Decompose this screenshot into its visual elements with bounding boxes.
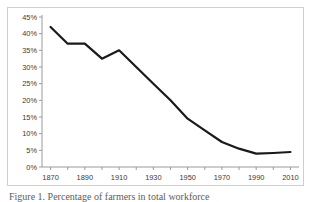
x-axis-tick-label: 1970 — [214, 173, 230, 182]
y-axis-tick-label: 25% — [22, 79, 37, 88]
y-axis-tick-label: 15% — [22, 113, 37, 122]
x-axis-tick-label: 1930 — [145, 173, 161, 182]
x-axis-tick-label: 1990 — [248, 173, 264, 182]
x-axis-tick-label: 2010 — [282, 173, 298, 182]
y-axis-tick-label: 45% — [22, 13, 37, 22]
chart-frame: 0%5%10%15%20%25%30%35%40%45%187018901910… — [7, 7, 304, 186]
y-axis-tick-label: 10% — [22, 129, 37, 138]
y-axis-tick-label: 35% — [22, 46, 37, 55]
y-axis-tick-label: 20% — [22, 96, 37, 105]
y-axis-tick-label: 5% — [26, 146, 37, 155]
figure-caption: Figure 1. Percentage of farmers in total… — [9, 191, 305, 202]
x-axis-tick-label: 1890 — [77, 173, 93, 182]
x-axis-tick-label: 1910 — [111, 173, 127, 182]
data-series-line — [51, 27, 291, 154]
x-axis-tick-label: 1870 — [42, 173, 58, 182]
x-axis-tick-label: 1950 — [179, 173, 195, 182]
y-axis-tick-label: 30% — [22, 63, 37, 72]
y-axis-tick-label: 0% — [26, 163, 37, 172]
figure-root: 0%5%10%15%20%25%30%35%40%45%187018901910… — [0, 0, 312, 202]
line-chart: 0%5%10%15%20%25%30%35%40%45%187018901910… — [8, 8, 303, 185]
y-axis-tick-label: 40% — [22, 29, 37, 38]
